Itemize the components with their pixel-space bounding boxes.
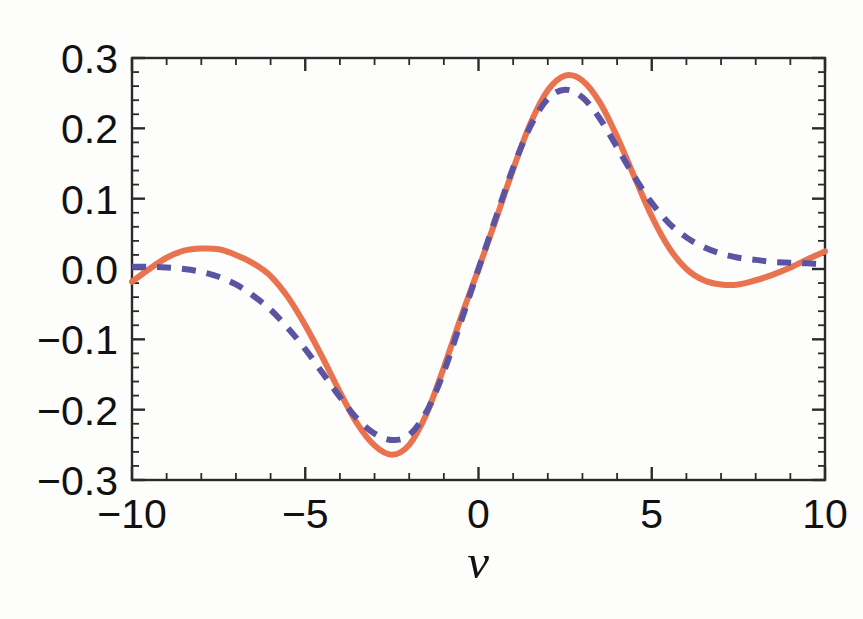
series-dashed-curve — [132, 90, 825, 440]
x-axis-tick-labels: −10−50510 — [97, 491, 848, 537]
y-tick-label: −0.2 — [37, 388, 118, 434]
y-tick-label: −0.1 — [37, 317, 118, 363]
chart-svg: −10−50510 0.30.20.10.0−0.1−0.2−0.3 ν — [0, 0, 863, 619]
x-axis-label: ν — [467, 534, 489, 589]
x-tick-label: −5 — [282, 491, 329, 537]
chart-figure: −10−50510 0.30.20.10.0−0.1−0.2−0.3 ν — [0, 0, 863, 619]
y-tick-label: 0.1 — [61, 177, 118, 223]
y-axis-tick-labels: 0.30.20.10.0−0.1−0.2−0.3 — [37, 36, 118, 504]
x-tick-label: 5 — [640, 491, 663, 537]
x-tick-label: 0 — [467, 491, 490, 537]
y-tick-label: 0.0 — [61, 247, 118, 293]
y-tick-label: 0.3 — [61, 36, 118, 82]
y-tick-label: 0.2 — [61, 106, 118, 152]
x-tick-label: 10 — [802, 491, 848, 537]
y-tick-label: −0.3 — [37, 458, 118, 504]
data-series-group — [132, 75, 825, 455]
